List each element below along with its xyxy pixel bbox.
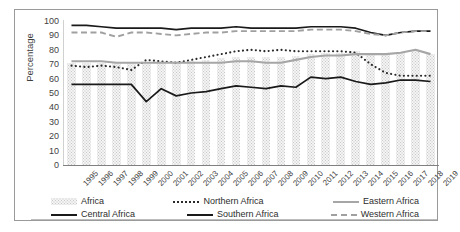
x-tick-label: 2011 — [321, 169, 340, 188]
legend-label: Africa — [81, 196, 104, 206]
legend-label: Northern Africa — [203, 196, 263, 206]
y-tick-label: 10 — [33, 147, 59, 156]
legend-item-eastern-africa[interactable]: Eastern Africa — [333, 196, 419, 206]
x-tick-label: 2015 — [381, 169, 400, 188]
x-tick-label: 2007 — [261, 169, 280, 188]
y-tick-label: 60 — [33, 75, 59, 84]
line-series-layer — [64, 21, 438, 165]
x-tick-label: 2009 — [291, 169, 310, 188]
y-tick-label: 70 — [33, 60, 59, 69]
dashed-line-swatch — [331, 210, 357, 218]
line-eastern-africa — [71, 50, 430, 63]
chart-legend: AfricaNorthern AfricaEastern Africa Cent… — [45, 194, 425, 220]
legend-row-2: Central AfricaSouthern AfricaWestern Afr… — [45, 207, 425, 220]
y-tick-label: 30 — [33, 118, 59, 127]
legend-label: Central Africa — [81, 209, 135, 219]
x-tick-label: 2013 — [351, 169, 370, 188]
x-tick-label: 2016 — [396, 169, 415, 188]
plot-area — [64, 21, 438, 165]
x-tick-label: 2018 — [426, 169, 445, 188]
legend-item-central-africa[interactable]: Central Africa — [51, 209, 135, 219]
legend-label: Eastern Africa — [363, 196, 419, 206]
legend-row-1: AfricaNorthern AfricaEastern Africa — [45, 194, 425, 207]
gray-line-swatch — [333, 197, 359, 205]
legend-label: Western Africa — [361, 209, 419, 219]
legend-item-southern-africa[interactable]: Southern Africa — [187, 209, 279, 219]
legend-item-northern-africa[interactable]: Northern Africa — [173, 196, 263, 206]
y-tick-label: 20 — [33, 132, 59, 141]
x-tick-label: 2008 — [276, 169, 295, 188]
bar-swatch — [51, 197, 77, 205]
y-tick-label: 0 — [33, 161, 59, 170]
chart-frame: Percentage 1009080706050403020100 199519… — [14, 9, 438, 221]
y-tick-label: 100 — [33, 17, 59, 26]
y-tick-label: 90 — [33, 31, 59, 40]
x-axis-line — [63, 165, 439, 166]
legend-item-western-africa[interactable]: Western Africa — [331, 209, 419, 219]
y-tick-label: 40 — [33, 103, 59, 112]
legend-label: Southern Africa — [217, 209, 279, 219]
black-line-swatch — [187, 210, 213, 218]
x-tick-label: 2019 — [441, 169, 460, 188]
x-tick-label: 2017 — [411, 169, 430, 188]
line-southern-africa — [71, 77, 430, 101]
x-tick-label: 2012 — [336, 169, 355, 188]
y-tick-label: 50 — [33, 89, 59, 98]
black-line-swatch — [51, 210, 77, 218]
legend-item-africa[interactable]: Africa — [51, 196, 104, 206]
y-axis-tick-labels: 1009080706050403020100 — [29, 21, 59, 165]
x-tick-label: 2014 — [366, 169, 385, 188]
dotted-line-swatch — [173, 197, 199, 205]
y-tick-label: 80 — [33, 46, 59, 55]
